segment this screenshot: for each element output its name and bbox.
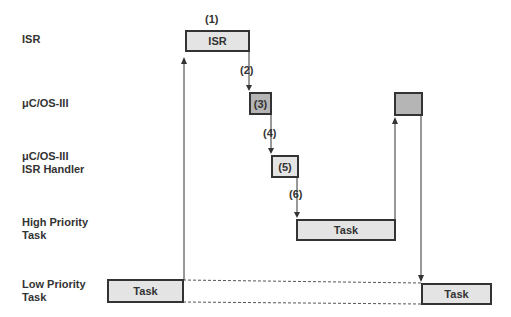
- isr-handler-box: (5): [271, 155, 299, 178]
- step-label-6: (6): [289, 188, 302, 200]
- connector-lines: [0, 0, 511, 317]
- isr-box: ISR: [185, 30, 250, 52]
- os-return-box: [394, 92, 423, 116]
- os-step-box: (3): [249, 92, 272, 115]
- high-priority-task-box: Task: [296, 219, 396, 241]
- low-priority-task-box-right: Task: [421, 283, 492, 305]
- low-priority-task-box-left: Task: [107, 279, 184, 303]
- step-label-4: (4): [263, 127, 276, 139]
- step-label-2: (2): [240, 64, 253, 76]
- step-label-1: (1): [205, 13, 218, 25]
